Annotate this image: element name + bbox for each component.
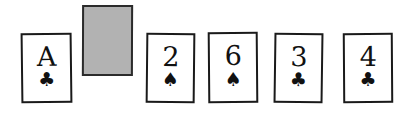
playing-card-four-of-clubs[interactable]: 4 ♣ (343, 33, 393, 103)
club-suit-icon: ♣ (290, 70, 307, 89)
spade-suit-icon: ♠ (224, 70, 241, 89)
card-rank: 4 (359, 45, 376, 70)
card-rank: 3 (290, 44, 307, 69)
playing-card-ace-of-clubs[interactable]: A ♣ (21, 33, 73, 104)
card-rank: A (37, 44, 56, 69)
playing-card-two-of-spades[interactable]: 2 ♠ (146, 33, 196, 104)
club-suit-icon: ♣ (359, 70, 376, 89)
card-rank: 2 (162, 44, 179, 69)
playing-card-six-of-spades[interactable]: 6 ♠ (208, 32, 259, 103)
playing-card-face-down[interactable] (82, 5, 133, 76)
card-rank: 6 (224, 44, 241, 69)
card-row: A ♣ 2 ♠ 6 ♠ 3 ♣ 4 ♣ (0, 0, 411, 123)
spade-suit-icon: ♠ (162, 70, 179, 89)
playing-card-three-of-clubs[interactable]: 3 ♣ (274, 33, 324, 104)
club-suit-icon: ♣ (38, 70, 55, 89)
